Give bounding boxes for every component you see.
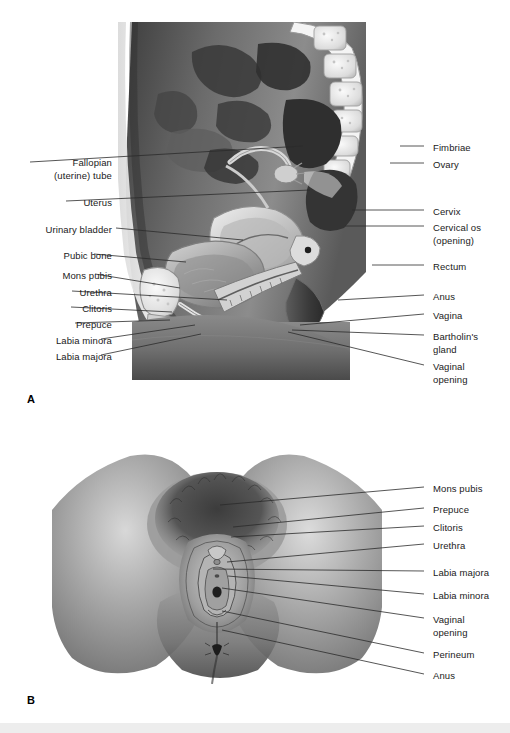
anatomy-label: Vagina [433,310,462,322]
anatomy-label: Anus [433,670,455,682]
anatomy-label: Clitoris [82,303,112,315]
anatomy-label: Fallopian [73,157,112,169]
anatomy-label: Labia majora [56,351,112,363]
panel-b-illustration [52,432,382,684]
anatomy-label: Mons pubis [62,270,112,282]
anatomy-label: Uterus [83,197,112,209]
anatomy-label: Labia minora [433,590,489,602]
anatomy-label: Ovary [433,159,459,171]
anatomy-label: (opening) [433,235,474,247]
panel-letter-b: B [27,694,35,706]
anatomy-label: Pubic bone [63,250,112,262]
anatomy-label: Mons pubis [433,483,483,495]
anatomy-label: Fimbriae [433,142,471,154]
panel-a-illustration [118,22,366,380]
anatomy-label: Urinary bladder [46,224,112,236]
anatomy-label: (uterine) tube [54,170,112,182]
anatomy-label: opening [433,627,468,639]
anatomy-label: Vaginal [433,614,465,626]
anatomy-label: Urethra [433,540,465,552]
anatomy-label: Perineum [433,649,474,661]
anatomy-label: gland [433,344,457,356]
anatomy-label: Rectum [433,261,466,273]
anatomy-label: Cervical os [433,222,481,234]
anatomy-label: Prepuce [433,504,469,516]
anatomy-label: Prepuce [76,319,112,331]
anatomy-label: opening [433,374,468,386]
figure-page: Fallopian(uterine) tubeUterusUrinary bla… [0,0,510,733]
anatomy-label: Cervix [433,206,461,218]
anatomy-label: Vaginal [433,361,465,373]
panel-letter-a: A [27,393,35,405]
anatomy-label: Labia minora [56,335,112,347]
anatomy-label: Anus [433,291,455,303]
anatomy-label: Clitoris [433,522,463,534]
anatomy-label: Urethra [80,287,112,299]
anatomy-label: Bartholin's [433,331,478,343]
bottom-band [0,723,510,733]
anatomy-label: Labia majora [433,567,489,579]
